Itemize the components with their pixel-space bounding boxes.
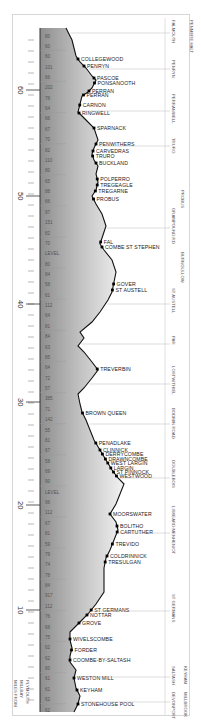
station-marker [95, 143, 98, 146]
gradient-value: 90 [45, 479, 51, 484]
gradient-value: 80 [45, 34, 51, 39]
gradient-value: 110 [45, 158, 53, 163]
gradient-value: 74 [45, 562, 51, 567]
right-station-label: MILLBROOK [183, 692, 188, 717]
station-marker [104, 458, 107, 461]
station-marker [86, 614, 89, 617]
station-marker [77, 703, 80, 706]
station-marker [92, 150, 95, 153]
gradient-value: 70 [45, 137, 51, 142]
station-name: NOTTAR [90, 612, 112, 618]
gradient-value: 78 [45, 573, 51, 578]
station-marker [77, 58, 80, 61]
station-marker [104, 561, 107, 564]
axis-label: MILLBAY [19, 680, 24, 698]
station-marker [76, 689, 79, 692]
axis-label: MILES FROM [13, 680, 18, 707]
station-marker [112, 471, 115, 474]
station-marker [116, 531, 119, 534]
station-marker [78, 104, 81, 107]
gradient-value: 68 [45, 625, 51, 630]
right-station-label: BURNGULLOW [180, 252, 185, 284]
station-marker [111, 543, 114, 546]
station-name: KEYHAM [80, 687, 103, 693]
station-marker [106, 462, 109, 465]
station-marker [94, 442, 97, 445]
right-station-label: SALTASH [171, 666, 176, 685]
station-marker [101, 453, 104, 456]
station-marker [69, 659, 72, 662]
right-station-label: PERRANWELL [171, 94, 176, 124]
gradient-value: LEVEL [45, 490, 60, 495]
station-name: PROBUS [97, 196, 120, 202]
gradient-value: 78 [45, 96, 51, 101]
mile-label: 60 [16, 86, 25, 94]
gradient-value: 58 [45, 459, 51, 464]
gradient-value: 81 [45, 438, 51, 443]
station-name: BROWN QUEEN [86, 410, 127, 416]
gradient-value: 67 [45, 521, 51, 526]
station-name: WIVELSCOMBE [73, 636, 113, 642]
gradient-value: 101 [45, 65, 53, 70]
gradient-value: 62 [45, 645, 51, 650]
gradient-value: 96 [45, 500, 51, 505]
gradient-value: 61 [45, 293, 51, 298]
gradient-value: 97 [45, 210, 51, 215]
station-marker [96, 368, 99, 371]
gradient-value: 80 [45, 168, 51, 173]
gradient-value: 142 [45, 417, 53, 422]
station-marker [112, 283, 115, 286]
gradient-value: 60 [45, 44, 51, 49]
station-marker [96, 178, 99, 181]
gradient-value: 59 [45, 542, 51, 547]
gradient-value: 81 [45, 324, 51, 329]
gradient-value: 84 [45, 583, 51, 588]
gradient-value: 66 [45, 75, 51, 80]
gradient-value: 79 [45, 552, 51, 557]
mile-label: 40 [16, 300, 25, 308]
gradient-value: 72 [45, 376, 51, 381]
gradient-value: 385 [45, 396, 53, 401]
gradient-value: 76 [45, 614, 51, 619]
right-station-label: GRAMPOUND RD [171, 208, 176, 244]
right-station-label: ST AUSTELL [171, 288, 176, 314]
gradient-value: 82 [45, 148, 51, 153]
station-name: TREVERBIN [100, 366, 131, 372]
gradient-value: 202 [45, 85, 53, 90]
right-station-label: KEYHAM [183, 666, 188, 685]
station-marker [115, 475, 118, 478]
station-marker [73, 677, 76, 680]
station-marker [93, 82, 96, 85]
gradient-value: 85 [45, 355, 51, 360]
station-marker [93, 77, 96, 80]
right-station-label: DOUBLEBOIS [171, 460, 176, 488]
station-name: TRURO [96, 153, 115, 159]
gradient-value: 64 [45, 106, 51, 111]
mile-label: 50 [16, 192, 25, 200]
gradient-value: 60 [45, 54, 51, 59]
gradient-value: 62 [45, 697, 51, 702]
gradient-value: 917 [45, 593, 53, 598]
station-marker [69, 638, 72, 641]
gradient-value: 112 [45, 604, 53, 609]
station-name: PONSANOOTH [98, 80, 136, 86]
right-station-label: DEVONPORT [171, 692, 176, 720]
right-station-label: PENRYN [171, 60, 176, 78]
mileage-axis: 605040302010 [16, 40, 40, 700]
gradient-value: 64 [45, 313, 51, 318]
mile-label: 20 [16, 501, 25, 509]
axis-label: PLYMOUTH [25, 680, 30, 704]
gradient-value: 66 [45, 199, 51, 204]
station-name: TREGARNE [98, 188, 128, 194]
gradient-value: 75 [45, 635, 51, 640]
gradient-value: 62 [45, 708, 51, 713]
gradient-value: 80 [45, 262, 51, 267]
station-name: MOORSWATER [113, 511, 152, 517]
station-name: CARNON [83, 102, 106, 108]
station-marker [109, 467, 112, 470]
gradient-value: 63 [45, 345, 51, 350]
station-name: FORDER [75, 647, 98, 653]
station-marker [101, 246, 104, 249]
right-station-label: BODMIN ROAD [171, 408, 176, 439]
station-name: PENADLAKE [99, 440, 131, 446]
